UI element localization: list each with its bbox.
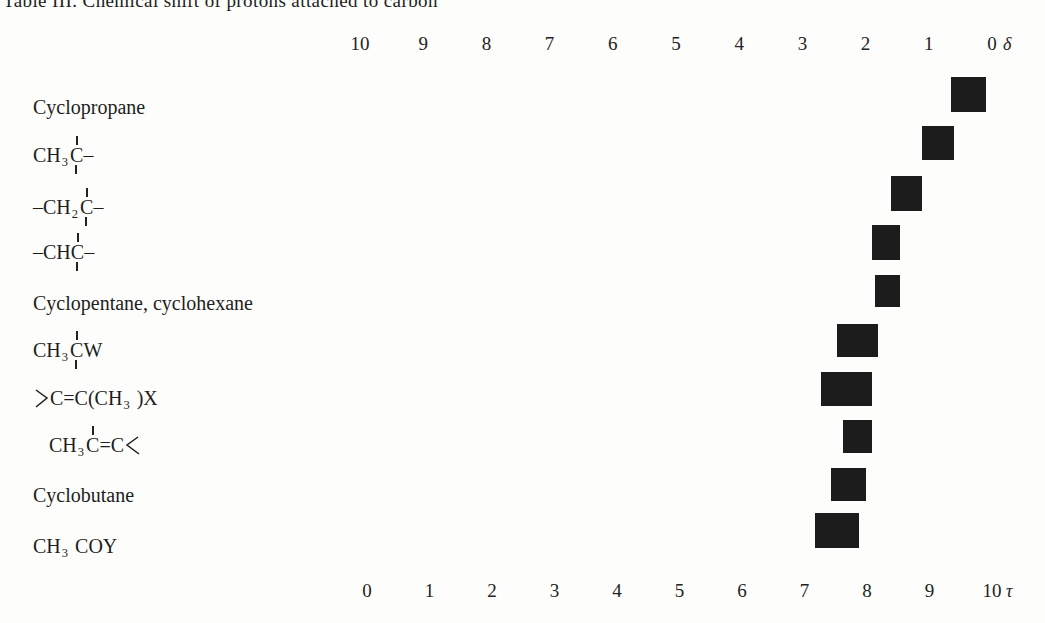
row-label: –CHC–	[33, 239, 94, 265]
shift-band	[843, 420, 871, 453]
row-label: CH3C=C	[49, 432, 141, 465]
formula-segment: CH	[49, 434, 77, 456]
table-title: Table III. Chemical shift of protons att…	[3, 0, 438, 12]
delta-axis-tick: 8	[466, 33, 506, 55]
double-bond-fork-left-icon	[34, 386, 49, 410]
formula-segment-bond-both: C	[70, 337, 83, 363]
formula-segment-bond-both: C	[71, 239, 84, 265]
shift-band	[951, 77, 986, 112]
delta-axis-tick: 1	[909, 33, 949, 55]
tau-axis-unit: τ	[1006, 581, 1012, 602]
formula-segment-sub: 2	[72, 207, 78, 221]
formula-segment: =C	[99, 434, 124, 456]
formula-segment: C=C(CH	[50, 387, 122, 409]
shift-band	[891, 176, 923, 211]
tau-axis-tick: 8	[847, 580, 887, 602]
tau-axis-tick: 2	[472, 580, 512, 602]
formula-segment: CH	[33, 535, 61, 557]
row-label: Cyclobutane	[33, 482, 134, 508]
shift-band	[815, 513, 859, 548]
delta-axis-tick: 9	[403, 33, 443, 55]
delta-axis-tick: 6	[593, 33, 633, 55]
tau-axis-tick: 5	[660, 580, 700, 602]
delta-axis-tick: 3	[782, 33, 822, 55]
chemical-shift-chart: Table III. Chemical shift of protons att…	[0, 0, 1045, 623]
tau-axis-tick: 0	[347, 580, 387, 602]
delta-axis-tick: 4	[719, 33, 759, 55]
row-label: CH3CW	[33, 337, 102, 370]
tau-axis-tick: 1	[410, 580, 450, 602]
delta-axis-tick: 2	[846, 33, 886, 55]
shift-band	[831, 468, 866, 501]
delta-axis-tick: 10	[340, 33, 380, 55]
shift-band	[922, 126, 954, 160]
formula-segment: –	[83, 144, 93, 166]
double-bond-fork-right-icon	[125, 433, 140, 457]
formula-segment: –CH	[33, 196, 71, 218]
delta-axis-unit: δ	[1003, 34, 1011, 55]
delta-axis-tick: 7	[530, 33, 570, 55]
tau-axis-tick: 6	[722, 580, 762, 602]
shift-band	[872, 225, 900, 260]
formula-segment: –CH	[33, 241, 71, 263]
delta-axis-tick: 5	[656, 33, 696, 55]
row-label: C=C(CH3 )X	[33, 385, 158, 418]
formula-segment: CH	[33, 339, 61, 361]
formula-segment: CH	[33, 144, 61, 166]
formula-segment: Cyclobutane	[33, 484, 134, 506]
formula-segment: W	[83, 339, 102, 361]
formula-segment-sub: 3	[62, 546, 68, 560]
formula-segment: –	[84, 241, 94, 263]
formula-segment-bond-above: C	[86, 432, 99, 458]
formula-segment: )X	[132, 387, 158, 409]
row-label: CH3 COY	[33, 533, 117, 566]
formula-segment-bond-both: C	[80, 194, 93, 220]
formula-segment-sub: 3	[62, 155, 68, 169]
formula-segment-bond-both: C	[70, 142, 83, 168]
row-label: CH3C–	[33, 142, 93, 175]
formula-segment: COY	[70, 535, 117, 557]
tau-axis-tick: 4	[597, 580, 637, 602]
formula-segment: –	[93, 196, 103, 218]
row-label: Cyclopentane, cyclohexane	[33, 290, 253, 316]
tau-axis-tick: 7	[785, 580, 825, 602]
row-label: –CH2C–	[33, 194, 103, 227]
formula-segment-sub: 3	[78, 445, 84, 459]
shift-band	[875, 275, 900, 307]
shift-band	[837, 324, 878, 357]
formula-segment: Cyclopentane, cyclohexane	[33, 292, 253, 314]
shift-band	[821, 372, 872, 406]
tau-axis-tick: 3	[535, 580, 575, 602]
formula-segment-sub: 3	[62, 350, 68, 364]
row-label: Cyclopropane	[33, 94, 145, 120]
formula-segment-sub: 3	[123, 398, 129, 412]
formula-segment: Cyclopropane	[33, 96, 145, 118]
tau-axis-tick: 9	[910, 580, 950, 602]
